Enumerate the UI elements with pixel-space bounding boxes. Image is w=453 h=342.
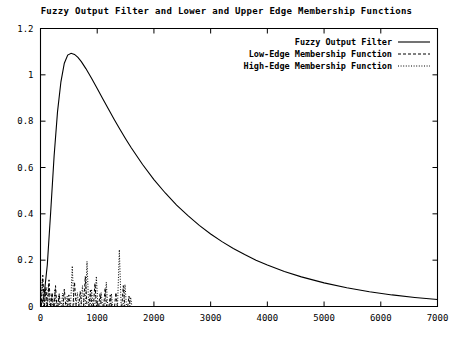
x-tick-label: 5000 <box>313 313 335 323</box>
y-tick-label: 0.2 <box>17 255 33 265</box>
chart-figure: Fuzzy Output Filter and Lower and Upper … <box>0 0 453 342</box>
legend-label-0: Fuzzy Output Filter <box>295 37 392 47</box>
x-tick-label: 3000 <box>200 313 222 323</box>
legend-label-1: Low-Edge Membership Function <box>249 49 392 59</box>
x-tick-label: 2000 <box>143 313 165 323</box>
x-tick-label: 6000 <box>370 313 392 323</box>
series-solid <box>41 53 438 306</box>
legend-label-2: High-Edge Membership Function <box>244 61 392 71</box>
y-tick-label: 0.4 <box>17 209 33 219</box>
y-tick-label: 1 <box>28 70 33 80</box>
x-tick-label: 0 <box>38 313 43 323</box>
x-tick-label: 7000 <box>427 313 449 323</box>
y-tick-label: 0 <box>28 302 33 312</box>
y-tick-label: 0.6 <box>17 163 33 173</box>
y-tick-label: 0.8 <box>17 116 33 126</box>
x-tick-label: 4000 <box>257 313 279 323</box>
y-tick-label: 1.2 <box>17 24 33 34</box>
x-tick-label: 1000 <box>86 313 108 323</box>
plot-area: 0100020003000400050006000700000.20.40.60… <box>0 0 453 342</box>
